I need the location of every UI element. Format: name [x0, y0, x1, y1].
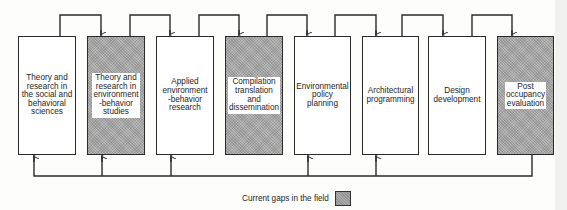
box-label: Theory and research in environment -beha…: [92, 73, 139, 118]
box-environmental-policy: Environmental policy planning: [294, 36, 351, 155]
box-label: Environmental policy planning: [295, 82, 349, 110]
box-label: Design development: [433, 86, 482, 105]
box-post-occupancy-evaluation: Post occupancy evaluation: [497, 36, 554, 155]
box-social-behavioral-sciences: Theory and research in the social and be…: [18, 36, 76, 155]
research-flow-diagram: Theory and research in the social and be…: [0, 0, 567, 210]
legend: Current gaps in the field: [242, 191, 351, 206]
box-compilation-dissemination: Compilation translation and disseminatio…: [225, 36, 283, 155]
box-applied-research: Applied environment -behavior research: [156, 36, 214, 155]
legend-label: Current gaps in the field: [242, 194, 329, 203]
gap-swatch-icon: [335, 191, 351, 206]
box-label: Applied environment -behavior research: [161, 77, 208, 113]
box-label: Post occupancy evaluation: [505, 82, 546, 110]
box-design-development: Design development: [428, 36, 486, 155]
box-label: Architectural programming: [365, 86, 415, 105]
box-label: Theory and research in the social and be…: [21, 73, 74, 118]
box-label: Compilation translation and disseminatio…: [228, 77, 280, 113]
box-environment-behavior-studies: Theory and research in environment -beha…: [87, 36, 145, 155]
box-architectural-programming: Architectural programming: [362, 36, 419, 155]
